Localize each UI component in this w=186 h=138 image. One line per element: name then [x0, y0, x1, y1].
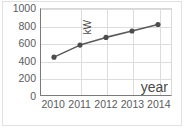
data-point-marker: [51, 55, 56, 60]
y-tick-label: 400: [2, 56, 36, 67]
data-point-marker: [103, 35, 108, 40]
x-axis-title: year: [141, 80, 168, 94]
data-point-marker: [129, 28, 134, 33]
plot-area: kW year: [40, 8, 172, 96]
y-tick-label: 0: [2, 91, 36, 102]
y-tick-label: 1000: [2, 3, 36, 14]
y-axis-tick-labels: 02004006008001000: [0, 8, 36, 96]
data-point-marker: [155, 22, 160, 27]
x-tick-label: 2011: [68, 99, 91, 110]
x-tick-label: 2014: [147, 99, 170, 110]
series-line-path: [54, 24, 158, 57]
x-tick-label: 2013: [121, 99, 144, 110]
y-tick-label: 600: [2, 38, 36, 49]
y-tick-label: 200: [2, 73, 36, 84]
y-axis-title: kW: [83, 20, 93, 34]
chart-figure: 02004006008001000 kW year 20102011201220…: [0, 0, 186, 138]
x-tick-label: 2010: [42, 99, 65, 110]
data-point-marker: [77, 43, 82, 48]
x-tick-label: 2012: [94, 99, 117, 110]
y-tick-label: 800: [2, 20, 36, 31]
x-axis-tick-labels: 20102011201220132014: [40, 99, 172, 115]
